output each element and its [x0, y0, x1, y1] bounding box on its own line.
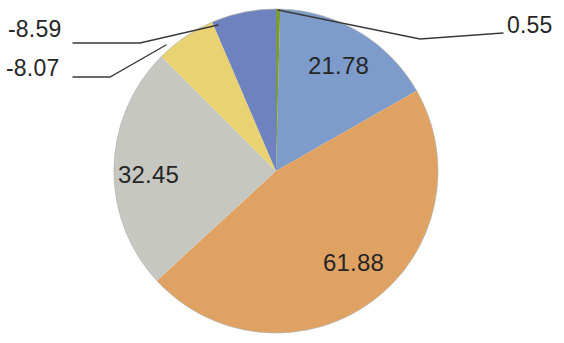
slice-value-label-gray: 32.45: [118, 163, 179, 187]
slice-value-label-yellow: -8.07: [6, 57, 59, 80]
pie-chart: 21.78 61.88 32.45 -8.07 -8.59 0.55: [0, 0, 564, 343]
pie-chart-graphic: [0, 0, 564, 343]
slice-value-label-blue: 21.78: [308, 54, 369, 78]
slice-value-label-orange: 61.88: [323, 251, 384, 275]
slice-value-label-indigo: -8.59: [8, 18, 61, 41]
slice-value-label-green: 0.55: [507, 14, 553, 37]
